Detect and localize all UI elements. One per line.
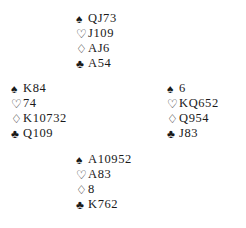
hand-east: ♠ 6 ♡ KQ652 ♢ Q954 ♣ J83 [167,81,219,141]
east-spades-row: ♠ 6 [167,81,219,96]
west-hearts-cards: 74 [23,96,37,111]
north-spades-row: ♠ QJ73 [76,11,117,26]
south-diamonds-row: ♢ 8 [76,182,132,197]
north-diamonds-row: ♢ AJ6 [76,41,117,56]
east-hearts-row: ♡ KQ652 [167,96,219,111]
west-spades-row: ♠ K84 [11,81,67,96]
hand-south: ♠ A10952 ♡ A83 ♢ 8 ♣ K762 [76,152,132,212]
diamond-icon: ♢ [76,184,88,196]
south-spades-row: ♠ A10952 [76,152,132,167]
north-clubs-cards: A54 [88,56,111,71]
diamond-icon: ♢ [167,113,179,125]
hand-north: ♠ QJ73 ♡ J109 ♢ AJ6 ♣ A54 [76,11,117,71]
heart-icon: ♡ [11,98,23,110]
south-clubs-cards: K762 [88,197,118,212]
west-spades-cards: K84 [23,81,46,96]
bridge-deal-diagram: ♠ QJ73 ♡ J109 ♢ AJ6 ♣ A54 ♠ K84 ♡ 74 ♢ K… [0,0,246,228]
west-diamonds-cards: K10732 [23,111,67,126]
west-hearts-row: ♡ 74 [11,96,67,111]
south-clubs-row: ♣ K762 [76,197,132,212]
diamond-icon: ♢ [11,113,23,125]
west-diamonds-row: ♢ K10732 [11,111,67,126]
spade-icon: ♠ [167,83,179,95]
heart-icon: ♡ [76,169,88,181]
east-diamonds-row: ♢ Q954 [167,111,219,126]
east-clubs-row: ♣ J83 [167,126,219,141]
west-clubs-cards: Q109 [23,126,53,141]
heart-icon: ♡ [76,28,88,40]
east-spades-cards: 6 [179,81,186,96]
north-hearts-row: ♡ J109 [76,26,117,41]
east-clubs-cards: J83 [179,126,198,141]
north-clubs-row: ♣ A54 [76,56,117,71]
south-spades-cards: A10952 [88,152,132,167]
south-hearts-cards: A83 [88,167,111,182]
spade-icon: ♠ [76,13,88,25]
north-hearts-cards: J109 [88,26,114,41]
hand-west: ♠ K84 ♡ 74 ♢ K10732 ♣ Q109 [11,81,67,141]
west-clubs-row: ♣ Q109 [11,126,67,141]
club-icon: ♣ [11,128,23,140]
east-hearts-cards: KQ652 [179,96,219,111]
spade-icon: ♠ [11,83,23,95]
heart-icon: ♡ [167,98,179,110]
diamond-icon: ♢ [76,43,88,55]
east-diamonds-cards: Q954 [179,111,209,126]
club-icon: ♣ [76,58,88,70]
north-diamonds-cards: AJ6 [88,41,110,56]
club-icon: ♣ [167,128,179,140]
south-hearts-row: ♡ A83 [76,167,132,182]
spade-icon: ♠ [76,154,88,166]
south-diamonds-cards: 8 [88,182,95,197]
club-icon: ♣ [76,199,88,211]
north-spades-cards: QJ73 [88,11,117,26]
